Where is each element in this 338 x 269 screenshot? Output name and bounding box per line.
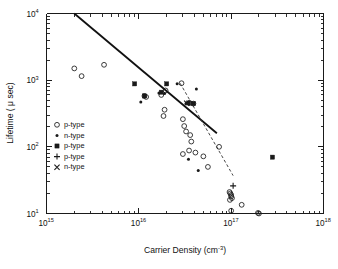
legend-item-1[interactable]: n-type: [56, 131, 85, 140]
solid-fit-line: [74, 14, 217, 134]
data-point: [142, 94, 146, 98]
data-point: [187, 148, 192, 153]
legend-marker-open-circle: [55, 122, 60, 127]
lifetime-vs-carrier-density-chart: 1015101610171018101102103104 p-typen-typ…: [0, 0, 338, 269]
legend-label: p-type: [64, 152, 85, 161]
chart-legend: p-typen-typep-typep-typen-type: [54, 120, 85, 171]
data-point: [180, 152, 185, 157]
series-plus: [230, 183, 236, 189]
data-point: [201, 154, 206, 159]
x-tick-label: 1015: [39, 217, 54, 228]
data-point: [72, 66, 77, 71]
legend-label: n-type: [64, 162, 85, 171]
fit-lines-layer: [74, 14, 233, 176]
data-point: [176, 82, 179, 85]
data-point: [206, 165, 211, 170]
data-point: [197, 169, 200, 172]
legend-item-2[interactable]: p-type: [55, 141, 85, 150]
dashed-fit-line: [180, 83, 233, 175]
data-points-layer: [72, 62, 275, 215]
data-point: [187, 158, 190, 161]
data-point: [188, 133, 193, 138]
data-point: [184, 129, 189, 134]
legend-item-0[interactable]: p-type: [55, 120, 85, 129]
data-point: [217, 144, 222, 149]
legend-label: p-type: [64, 141, 85, 150]
x-tick-label: 1018: [316, 217, 331, 228]
data-point: [102, 62, 107, 67]
series-filled-square: [133, 82, 275, 159]
data-point: [133, 82, 137, 86]
y-axis-title: Lifetime ( μ sec): [5, 82, 15, 143]
data-point: [79, 74, 84, 79]
data-point: [161, 114, 166, 119]
tick-labels-layer: 1015101610171018101102103104: [27, 8, 331, 228]
data-point: [195, 87, 198, 90]
legend-marker-small-dot: [56, 134, 59, 137]
svg-text:Lifetime ( μ sec): Lifetime ( μ sec): [5, 82, 15, 143]
data-point: [159, 90, 163, 94]
data-point: [239, 202, 244, 207]
legend-item-4[interactable]: n-type: [54, 162, 84, 171]
y-tick-label: 102: [27, 141, 39, 152]
data-point: [270, 155, 274, 159]
axes-frame: [47, 14, 324, 214]
data-point: [230, 183, 236, 189]
y-tick-label: 104: [27, 8, 39, 19]
data-point: [191, 102, 195, 106]
data-point: [139, 101, 142, 104]
legend-label: n-type: [64, 131, 85, 140]
data-point: [162, 107, 167, 112]
data-point: [189, 139, 194, 144]
data-point: [193, 150, 198, 155]
legend-marker-filled-square: [55, 144, 59, 148]
y-tick-label: 103: [27, 75, 39, 86]
data-point: [182, 124, 187, 129]
legend-marker-cross: [54, 165, 59, 170]
data-point: [165, 82, 169, 86]
legend-label: p-type: [64, 120, 85, 129]
x-axis-title: Carrier Density (cm-3): [144, 245, 226, 255]
data-point: [180, 117, 185, 122]
legend-item-3[interactable]: p-type: [54, 152, 85, 161]
x-tick-label: 1017: [223, 217, 238, 228]
x-tick-label: 1016: [131, 217, 146, 228]
ticks-layer: [47, 14, 324, 214]
figure-container: 1015101610171018101102103104 p-typen-typ…: [0, 0, 338, 269]
y-tick-label: 101: [27, 208, 39, 219]
svg-text:Carrier Density (cm-3): Carrier Density (cm-3): [144, 245, 226, 255]
legend-marker-plus: [54, 154, 60, 160]
